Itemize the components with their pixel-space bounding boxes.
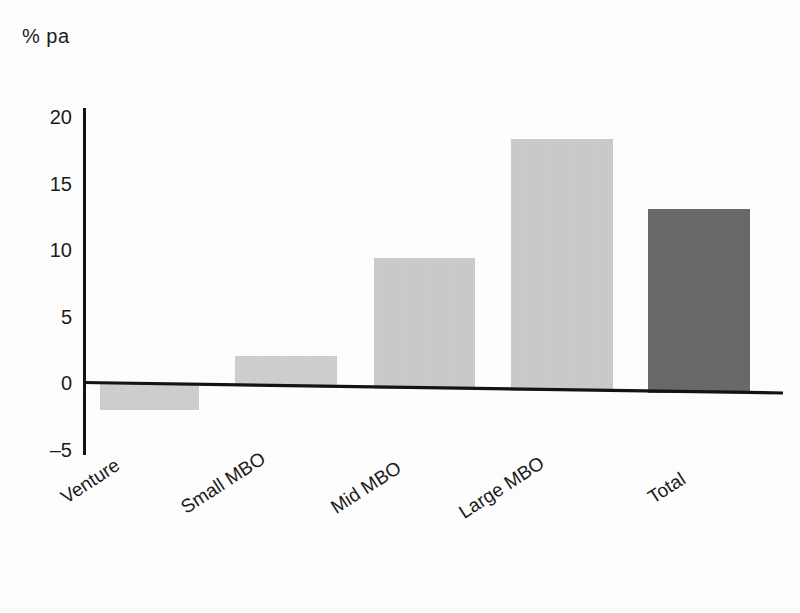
y-tick-label-10: 10 <box>28 239 72 262</box>
x-tick-label-mid-mbo: Mid MBO <box>327 457 405 519</box>
y-tick-label-0: 0 <box>28 372 72 395</box>
y-axis-line <box>83 108 86 455</box>
bar-chart-figure: % pa 20 15 10 5 0 –5 <box>0 0 800 613</box>
y-tick-label-5: 5 <box>28 306 72 329</box>
x-tick-label-large-mbo: Large MBO <box>455 452 548 523</box>
bar-total <box>648 209 750 393</box>
bar-mid-mbo <box>374 258 475 389</box>
bar-large-mbo <box>511 139 613 391</box>
y-tick-label-20: 20 <box>28 106 72 129</box>
x-tick-label-venture: Venture <box>57 454 124 508</box>
x-axis-line <box>83 372 783 396</box>
plot-area: 20 15 10 5 0 –5 Venture <box>0 0 800 613</box>
y-tick-label-15: 15 <box>28 173 72 196</box>
x-tick-label-total: Total <box>644 468 690 508</box>
x-tick-label-small-mbo: Small MBO <box>177 448 270 519</box>
y-tick-label-minus5: –5 <box>28 439 72 462</box>
